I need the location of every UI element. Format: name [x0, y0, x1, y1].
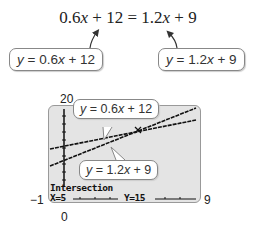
- y-readout: Y=15: [124, 192, 145, 203]
- graph-callout-line-1: y = 0.6x + 12: [73, 99, 159, 119]
- x-readout: X=5: [50, 192, 66, 203]
- graph-callout-line-2: y = 1.2x + 9: [79, 160, 158, 180]
